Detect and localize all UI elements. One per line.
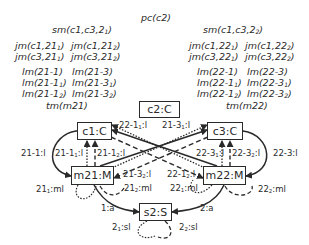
edge-2-2-sl (158, 221, 171, 238)
edge-21-2-ml (100, 186, 124, 195)
label-21-1-ml: 211:ml (36, 185, 64, 195)
label-21-2-ml: 212:ml (124, 184, 152, 194)
jm-left-4: jm(c3,212) (71, 52, 121, 62)
lm-left-3: lm(21-11) (22, 78, 67, 88)
label-21-1-2: 21-12:l (97, 149, 125, 159)
sm-right: sm(c1,c3,22) (203, 25, 263, 35)
lm-right-5: lm(22-12) (197, 89, 242, 99)
label-22-3: 22-3:l (273, 149, 298, 158)
lm-left-1: lm(21-1) (22, 67, 63, 77)
lm-left-5: lm(21-12) (22, 89, 67, 99)
label-22-1-2: 22-12:l (167, 170, 195, 180)
jm-right-4: jm(c3,222) (245, 52, 295, 62)
jm-left-2: jm(c1,212) (71, 41, 121, 51)
label-1a: 1:a (101, 204, 114, 213)
lm-right-6: lm(22-32) (247, 89, 292, 99)
jm-right-1: jm(c1,221) (189, 41, 239, 51)
lm-left-2: lm(21-3) (72, 67, 113, 77)
tm-right: tm(m22) (226, 101, 268, 111)
node-m22: m22:M (203, 166, 246, 185)
label-2-1-sl: 21:sl (112, 223, 131, 233)
node-s2: s2:S (139, 203, 172, 221)
label-21-3-1: 21-31:l (162, 121, 190, 131)
label-22-3-1: 22-31:l (196, 149, 224, 159)
label-22-3-2: 22-32:l (232, 149, 260, 159)
lm-left-6: lm(21-32) (72, 89, 117, 99)
node-m21: m21:M (71, 166, 114, 185)
label-22-1-ml: 221:ml (170, 184, 198, 194)
edge-2-1-sl (138, 221, 155, 238)
lm-right-1: lm(22-1) (197, 67, 238, 77)
lm-right-3: lm(22-11) (197, 78, 242, 88)
jm-right-2: jm(c1,222) (245, 41, 295, 51)
edge-22-2-ml (225, 186, 252, 195)
edge-21-1-ml (76, 185, 96, 199)
label-2a: 2:a (200, 204, 213, 213)
label-21-1: 21-1:l (21, 149, 46, 158)
edge-21-3-1 (112, 125, 207, 168)
sm-left: sm(c1,c3,21) (52, 25, 112, 35)
lm-right-4: lm(22-31) (247, 78, 292, 88)
label-21-3-2: 21-32:l (123, 170, 151, 180)
lm-right-2: lm(22-3) (247, 67, 288, 77)
lm-left-4: lm(21-31) (72, 78, 117, 88)
tm-left: tm(m21) (46, 101, 88, 111)
label-21-1-1: 21-11:l (55, 149, 83, 159)
label-2-2-sl: 22:sl (179, 223, 198, 233)
jm-left-1: jm(c1,211) (15, 41, 65, 51)
node-c3: c3:C (207, 122, 243, 140)
label-22-1-1: 22-11:l (119, 121, 147, 131)
jm-right-3: jm(c3,221) (189, 52, 239, 62)
jm-left-3: jm(c3,211) (15, 52, 65, 62)
pc-label: pc(c2) (141, 13, 171, 23)
label-22-2-ml: 222:ml (258, 185, 286, 195)
node-c1: c1:C (77, 122, 112, 140)
node-c2: c2:C (139, 101, 180, 118)
